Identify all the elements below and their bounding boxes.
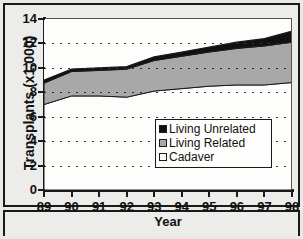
y-tick-mark xyxy=(38,18,45,20)
y-axis-labels: 14121086420 xyxy=(0,0,37,200)
y-tick-mark xyxy=(38,91,45,93)
x-tick-label: 98 xyxy=(279,199,303,214)
x-tick-label: 93 xyxy=(141,199,167,214)
x-tick-mark xyxy=(263,191,265,197)
y-tick-label: 14 xyxy=(5,12,37,25)
y-tick-label: 8 xyxy=(5,85,37,98)
legend-swatch-living-unrelated xyxy=(159,125,167,133)
y-tick-label: 12 xyxy=(5,36,37,49)
y-tick-label: 2 xyxy=(5,159,37,172)
x-tick-mark xyxy=(291,191,293,197)
x-tick-label: 92 xyxy=(114,199,140,214)
x-tick-mark xyxy=(98,191,100,197)
y-tick-mark xyxy=(38,116,45,118)
y-tick-label: 0 xyxy=(5,183,37,196)
y-tick-mark xyxy=(38,165,45,167)
x-tick-mark xyxy=(236,191,238,197)
legend-item-cadaver: Cadaver xyxy=(159,150,268,164)
y-tick-mark xyxy=(38,140,45,142)
x-tick-mark xyxy=(208,191,210,197)
x-tick-mark xyxy=(181,191,183,197)
y-tick-mark xyxy=(38,42,45,44)
legend-swatch-living-related xyxy=(159,139,167,147)
chart-legend: Living Unrelated Living Related Cadaver xyxy=(155,119,272,168)
y-tick-label: 4 xyxy=(5,134,37,147)
x-tick-label: 95 xyxy=(196,199,222,214)
legend-item-living-related: Living Related xyxy=(159,136,268,150)
y-tick-label: 10 xyxy=(5,61,37,74)
x-axis-title: Year xyxy=(44,214,292,229)
y-tick-mark xyxy=(38,67,45,69)
legend-swatch-cadaver xyxy=(159,153,167,161)
gridline xyxy=(44,43,292,44)
x-tick-label: 94 xyxy=(169,199,195,214)
x-tick-label: 91 xyxy=(86,199,112,214)
legend-label-living-unrelated: Living Unrelated xyxy=(169,123,256,135)
y-tick-label: 6 xyxy=(5,110,37,123)
x-tick-label: 89 xyxy=(31,199,57,214)
x-tick-mark xyxy=(126,191,128,197)
legend-label-living-related: Living Related xyxy=(169,137,245,149)
chart-figure: Transplants (x1,000) 14121086420 8990919… xyxy=(0,0,303,239)
x-tick-label: 97 xyxy=(251,199,277,214)
x-tick-mark xyxy=(43,191,45,197)
legend-label-cadaver: Cadaver xyxy=(169,151,214,163)
y-tick-mark xyxy=(38,189,45,191)
gridline xyxy=(44,117,292,118)
gridline xyxy=(44,92,292,93)
x-tick-label: 90 xyxy=(59,199,85,214)
x-tick-mark xyxy=(71,191,73,197)
x-tick-label: 96 xyxy=(224,199,250,214)
legend-item-living-unrelated: Living Unrelated xyxy=(159,122,268,136)
gridline xyxy=(44,68,292,69)
x-tick-mark xyxy=(153,191,155,197)
